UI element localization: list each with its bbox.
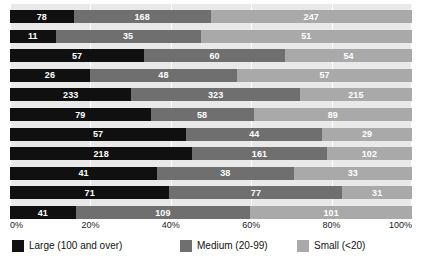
bar-segment-large: 11 <box>10 30 56 43</box>
bar-segment-value: 31 <box>342 188 412 197</box>
bar-segment-value: 109 <box>76 208 251 217</box>
legend-item[interactable]: Large (100 and over) <box>12 239 122 253</box>
bar-segment-small: 57 <box>237 69 412 82</box>
legend-label: Medium (20-99) <box>197 240 268 252</box>
bar-segment-small: 29 <box>322 128 412 141</box>
bar-segment-value: 54 <box>285 51 412 60</box>
bar-row: 717731 <box>10 186 412 199</box>
x-axis-tick-label: 40% <box>162 220 180 231</box>
bar-segment-value: 35 <box>56 32 201 41</box>
bar-segment-medium: 77 <box>169 186 342 199</box>
bar-segment-small: 89 <box>254 108 412 121</box>
bar-segment-value: 33 <box>294 169 412 178</box>
x-axis-tick-label: 100% <box>389 220 412 231</box>
bar-segment-value: 29 <box>322 130 412 139</box>
bar-segment-value: 57 <box>10 51 144 60</box>
bar-row: 264857 <box>10 69 412 82</box>
bar-segment-value: 26 <box>10 71 90 80</box>
bar-segment-value: 79 <box>10 110 151 119</box>
legend-label: Large (100 and over) <box>29 240 122 252</box>
bar-segment-medium: 168 <box>74 10 211 23</box>
bar-row: 78168247 <box>10 10 412 23</box>
legend-item[interactable]: Small (<20) <box>297 239 365 253</box>
bar-row: 41109101 <box>10 206 412 219</box>
bar-segment-value: 102 <box>327 149 412 158</box>
bar-segment-large: 26 <box>10 69 90 82</box>
bar-segment-large: 41 <box>10 167 157 180</box>
bar-segment-value: 101 <box>250 208 412 217</box>
bar-segment-large: 57 <box>10 128 186 141</box>
bar-row: 795889 <box>10 108 412 121</box>
x-axis: 0%20%40%60%80%100% <box>10 220 412 233</box>
chart-page: 7816824711355157605426485723332321579588… <box>0 0 425 258</box>
bar-segment-value: 57 <box>10 130 186 139</box>
bar-rows: 7816824711355157605426485723332321579588… <box>10 4 412 218</box>
bar-segment-medium: 323 <box>131 88 299 101</box>
bar-segment-medium: 58 <box>151 108 254 121</box>
bar-segment-small: 215 <box>300 88 412 101</box>
bar-segment-medium: 109 <box>76 206 251 219</box>
bar-segment-small: 247 <box>211 10 412 23</box>
legend-item[interactable]: Medium (20-99) <box>180 239 268 253</box>
bar-row: 113551 <box>10 30 412 43</box>
bar-segment-value: 71 <box>10 188 169 197</box>
bar-segment-small: 33 <box>294 167 412 180</box>
bar-segment-value: 89 <box>254 110 412 119</box>
bar-segment-small: 51 <box>201 30 412 43</box>
x-axis-tick-label: 0% <box>10 220 23 231</box>
bar-segment-value: 60 <box>144 51 285 60</box>
bar-segment-value: 48 <box>90 71 237 80</box>
bar-segment-small: 54 <box>285 49 412 62</box>
bar-segment-medium: 60 <box>144 49 285 62</box>
x-axis-tick-label: 20% <box>81 220 99 231</box>
bar-row: 413833 <box>10 167 412 180</box>
bar-segment-small: 102 <box>327 147 412 160</box>
bar-row: 576054 <box>10 49 412 62</box>
bar-segment-value: 247 <box>211 12 412 21</box>
bar-segment-value: 58 <box>151 110 254 119</box>
bar-row: 574429 <box>10 128 412 141</box>
bar-segment-value: 51 <box>201 32 412 41</box>
bar-segment-large: 41 <box>10 206 76 219</box>
x-axis-tick-label: 80% <box>323 220 341 231</box>
chart-legend: Large (100 and over)Medium (20-99)Small … <box>12 239 412 255</box>
bar-segment-small: 31 <box>342 186 412 199</box>
bar-segment-medium: 38 <box>157 167 293 180</box>
bar-row: 218161102 <box>10 147 412 160</box>
bar-segment-value: 78 <box>10 12 74 21</box>
x-axis-tick-label: 60% <box>242 220 260 231</box>
bar-segment-large: 79 <box>10 108 151 121</box>
bar-segment-value: 11 <box>10 32 56 41</box>
bar-segment-value: 41 <box>10 208 76 217</box>
legend-label: Small (<20) <box>314 240 365 252</box>
bar-segment-value: 323 <box>131 90 299 99</box>
bar-segment-medium: 35 <box>56 30 201 43</box>
bar-segment-large: 218 <box>10 147 192 160</box>
bar-segment-value: 233 <box>10 90 131 99</box>
bar-segment-value: 57 <box>237 71 412 80</box>
bar-segment-value: 77 <box>169 188 342 197</box>
bar-segment-large: 233 <box>10 88 131 101</box>
plot-area: 7816824711355157605426485723332321579588… <box>10 4 412 218</box>
bar-segment-medium: 44 <box>186 128 322 141</box>
bar-row: 233323215 <box>10 88 412 101</box>
bar-segment-value: 44 <box>186 130 322 139</box>
bar-segment-large: 57 <box>10 49 144 62</box>
bar-segment-value: 218 <box>10 149 192 158</box>
legend-swatch-icon <box>180 240 192 252</box>
legend-swatch-icon <box>297 240 309 252</box>
bar-segment-large: 78 <box>10 10 74 23</box>
bar-segment-large: 71 <box>10 186 169 199</box>
bar-segment-small: 101 <box>250 206 412 219</box>
bar-segment-value: 168 <box>74 12 211 21</box>
bar-segment-medium: 161 <box>192 147 327 160</box>
bar-segment-value: 161 <box>192 149 327 158</box>
bar-segment-value: 41 <box>10 169 157 178</box>
bar-segment-value: 215 <box>300 90 412 99</box>
bar-segment-value: 38 <box>157 169 293 178</box>
bar-segment-medium: 48 <box>90 69 237 82</box>
legend-swatch-icon <box>12 240 24 252</box>
